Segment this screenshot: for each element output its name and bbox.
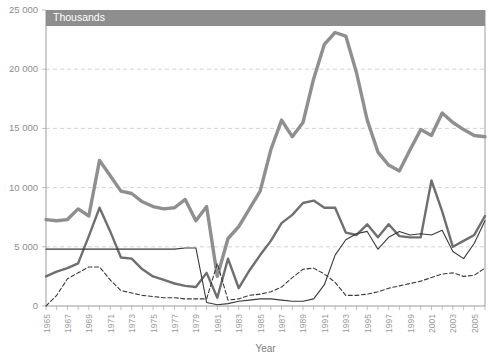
x-tick-label: 1979	[191, 314, 201, 333]
x-tick-label: 1995	[363, 314, 373, 333]
x-tick-label: 1997	[384, 314, 394, 333]
x-tick-label: 2005	[470, 314, 480, 333]
x-tick-label: 1977	[170, 314, 180, 333]
x-tick-label: 1967	[63, 314, 73, 333]
units-banner	[46, 10, 485, 26]
line-chart: 05 00010 00015 00020 00025 0001965196719…	[0, 0, 501, 362]
x-tick-label: 1983	[234, 314, 244, 333]
x-tick-label: 1993	[341, 314, 351, 333]
x-axis-title: Year	[255, 343, 276, 354]
plot-area	[46, 10, 485, 306]
x-tick-label: 1999	[406, 314, 416, 333]
x-tick-label: 1973	[127, 314, 137, 333]
x-tick-label: 1975	[149, 314, 159, 333]
x-tick-label: 1991	[320, 314, 330, 333]
y-tick-label: 10 000	[9, 182, 38, 193]
units-banner-label: Thousands	[53, 11, 105, 23]
y-tick-label: 5 000	[14, 241, 38, 252]
y-tick-label: 15 000	[9, 122, 38, 133]
x-tick-label: 2003	[448, 314, 458, 333]
x-tick-label: 1971	[106, 314, 116, 333]
x-tick-label: 1981	[213, 314, 223, 333]
x-tick-label: 2001	[427, 314, 437, 333]
chart-canvas: 05 00010 00015 00020 00025 0001965196719…	[0, 0, 501, 362]
x-tick-label: 1969	[84, 314, 94, 333]
y-tick-label: 25 000	[9, 4, 38, 15]
x-tick-label: 1987	[277, 314, 287, 333]
x-tick-label: 1965	[42, 314, 52, 333]
y-tick-label: 0	[33, 300, 38, 311]
x-tick-label: 1989	[298, 314, 308, 333]
x-tick-label: 1985	[256, 314, 266, 333]
y-tick-label: 20 000	[9, 63, 38, 74]
